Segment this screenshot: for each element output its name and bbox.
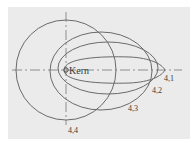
orbit-label-4-1: 4,1 [164,74,174,83]
orbit-diagram: Kern 4,1 4,2 4,3 4,4 [0,0,193,148]
nucleus-label: Kern [69,65,89,76]
orbit-label-4-4: 4,4 [68,126,78,135]
orbit-label-4-3: 4,3 [128,104,138,113]
orbit-label-4-2: 4,2 [152,86,162,95]
orbit-4-3 [50,32,152,110]
